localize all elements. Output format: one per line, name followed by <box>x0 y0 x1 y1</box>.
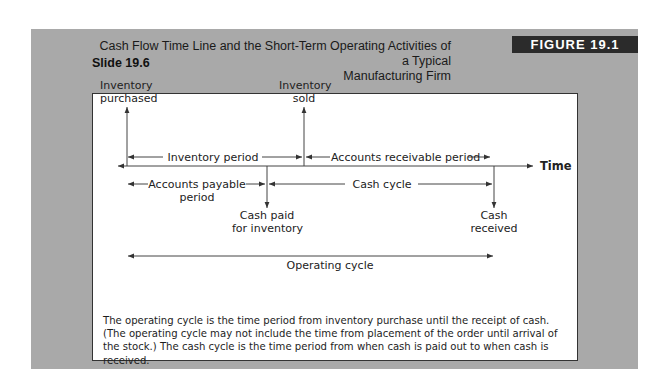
cash-cycle-label: Cash cycle <box>348 178 416 191</box>
inventory-purchased-label: Inventory purchased <box>100 79 157 105</box>
cash-paid-label: Cash paid for inventory <box>232 209 302 235</box>
cash-received-label: Cash received <box>469 209 519 235</box>
inventory-sold-label: Inventory sold <box>279 79 329 105</box>
time-axis-label: Time <box>540 160 572 173</box>
operating-cycle-label: Operating cycle <box>260 259 400 272</box>
accounts-payable-period-label: Accounts payable period <box>148 178 246 204</box>
inventory-period-label: Inventory period <box>166 151 260 164</box>
accounts-receivable-period-label: Accounts receivable period <box>331 151 467 164</box>
diagram-caption: The operating cycle is the time period f… <box>103 314 573 367</box>
